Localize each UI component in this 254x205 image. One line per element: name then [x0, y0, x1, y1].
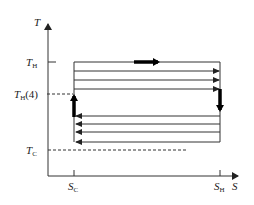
s-cold-marker: SC — [68, 170, 79, 194]
left-arrow-lines — [76, 116, 220, 142]
axes — [48, 24, 238, 176]
svg-text:TC: TC — [26, 144, 37, 158]
s-hot-sub: H — [220, 186, 225, 194]
t-hot-marker: TH — [26, 56, 56, 70]
t-hot-4-marker: TH(4) — [14, 88, 73, 102]
t-cold-sub: C — [32, 150, 37, 158]
t-hot-sub: H — [32, 62, 37, 70]
t-hot-4-suffix: (4) — [25, 88, 38, 101]
y-axis-label: T — [34, 16, 41, 28]
svg-text:TH(4): TH(4) — [14, 88, 38, 102]
svg-text:SH: SH — [214, 180, 225, 194]
s-hot-marker: SH — [214, 170, 225, 194]
svg-text:TH: TH — [26, 56, 37, 70]
svg-text:SC: SC — [68, 180, 79, 194]
t-cold-marker: TC — [26, 144, 186, 158]
x-axis-label: S — [232, 180, 238, 192]
s-cold-sub: C — [74, 186, 79, 194]
right-arrow-lines — [74, 71, 219, 89]
ts-diagram: T S TH TH(4) TC SC SH — [0, 0, 254, 205]
